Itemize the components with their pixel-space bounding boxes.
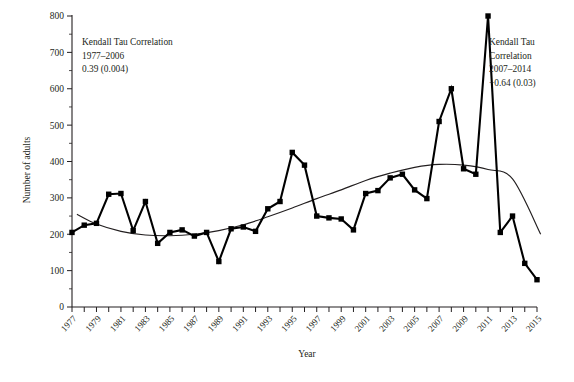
data-point-marker [241,224,246,229]
x-tick-label: 1987 [181,313,201,333]
data-point-marker [351,227,356,232]
data-point-marker [387,175,392,180]
data-point-marker [534,277,539,282]
x-tick-label: 2003 [377,313,397,333]
x-tick-label: 2015 [524,313,544,333]
data-point-marker [436,119,441,124]
data-point-marker [485,13,490,18]
data-point-marker [130,228,135,233]
y-tick-label: 0 [59,302,64,312]
data-point-marker [375,188,380,193]
data-series [72,16,537,280]
data-point-marker [192,233,197,238]
x-tick-label: 1977 [59,313,79,333]
data-point-marker [277,199,282,204]
x-tick-label: 2013 [499,313,519,333]
right-annotation-line: Correlation [489,51,532,61]
annotations: Kendall Tau Correlation1977–20060.39 (0.… [82,37,536,89]
data-point-marker [522,261,527,266]
line-chart: 0100200300400500600700800 19771979198119… [0,0,574,382]
x-tick-label: 1983 [132,313,152,333]
x-tick-label: 2005 [402,313,422,333]
data-point-marker [473,172,478,177]
data-point-marker [179,227,184,232]
y-tick-label: 300 [50,193,65,203]
data-point-marker [253,229,258,234]
x-tick-label: 1985 [157,313,177,333]
x-tick-label: 2007 [426,313,446,333]
x-tick-label: 2001 [353,314,373,334]
data-point-marker [290,150,295,155]
data-point-marker [143,199,148,204]
series-polyline [72,16,537,280]
y-tick-label: 400 [50,157,65,167]
x-tick-label: 1981 [108,314,128,334]
y-tick-label: 800 [50,11,65,21]
data-point-marker [498,230,503,235]
x-tick-label: 1989 [206,313,226,333]
x-tick-label: 2009 [450,313,470,333]
data-point-marker [265,206,270,211]
y-tick-label: 600 [50,84,65,94]
data-point-marker [302,162,307,167]
data-point-marker [400,172,405,177]
data-point-marker [118,191,123,196]
x-axis: 1977197919811983198519871989199119931995… [59,307,544,334]
x-tick-label: 1999 [328,313,348,333]
data-point-marker [424,196,429,201]
y-axis: 0100200300400500600700800 [50,11,72,312]
y-axis-title: Number of adults [22,136,32,203]
data-point-marker [167,230,172,235]
right-annotation-line: 2007–2014 [489,64,532,74]
y-tick-label: 500 [50,121,65,131]
x-tick-label: 1995 [279,313,299,333]
data-point-marker [216,259,221,264]
left-annotation-line: Kendall Tau Correlation [82,37,173,47]
x-tick-label: 1993 [255,313,275,333]
right-annotation-line: −0.64 (0.03) [489,78,536,89]
data-point-marker [204,230,209,235]
data-point-marker [314,213,319,218]
data-point-marker [461,166,466,171]
data-point-marker [228,226,233,231]
data-point-marker [82,222,87,227]
data-point-marker [363,191,368,196]
data-point-marker [412,187,417,192]
figure-container: 0100200300400500600700800 19771979198119… [0,0,574,382]
x-tick-label: 1991 [230,314,250,334]
left-annotation-line: 1977–2006 [82,51,125,61]
data-point-marker [94,221,99,226]
right-annotation-line: Kendall Tau [489,37,535,47]
data-markers [69,13,539,282]
data-point-marker [69,230,74,235]
data-point-marker [326,215,331,220]
data-point-marker [510,213,515,218]
y-tick-label: 200 [50,230,65,240]
data-point-marker [155,241,160,246]
y-tick-label: 100 [50,266,65,276]
data-point-marker [339,216,344,221]
x-tick-label: 2011 [475,314,494,334]
data-point-marker [106,192,111,197]
x-tick-label: 1979 [83,313,103,333]
x-tick-label: 1997 [304,313,324,333]
y-tick-label: 700 [50,48,65,58]
data-point-marker [449,86,454,91]
left-annotation-line: 0.39 (0.004) [82,64,128,75]
x-axis-title: Year [298,349,316,359]
